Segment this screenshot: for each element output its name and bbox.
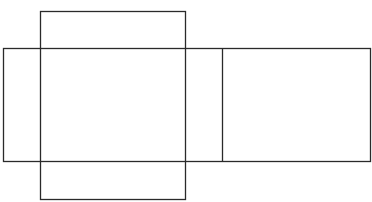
cube-net-diagram	[0, 0, 372, 202]
vertical-rectangle	[41, 12, 186, 200]
horizontal-band-rectangle	[4, 49, 371, 162]
diagram-canvas	[0, 0, 372, 202]
